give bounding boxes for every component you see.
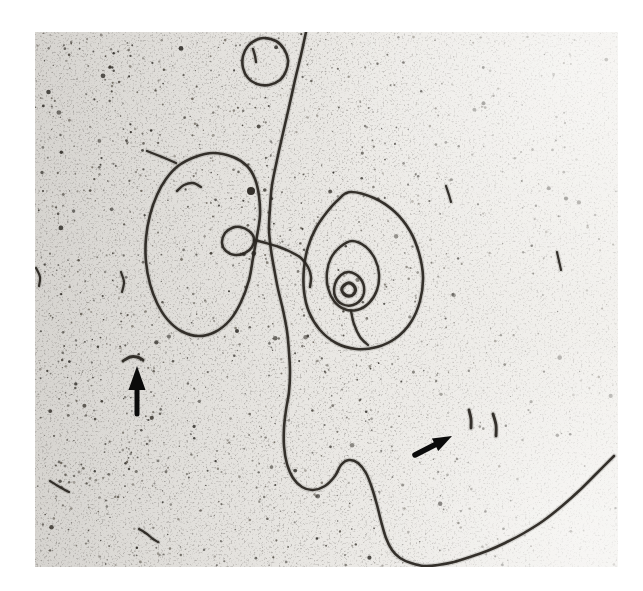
page-background — [0, 0, 643, 591]
dense-dots-layer — [247, 187, 255, 195]
electron-micrograph-photo — [35, 32, 618, 567]
micrograph-canvas — [35, 32, 618, 567]
dense-particle-dot — [247, 187, 255, 195]
